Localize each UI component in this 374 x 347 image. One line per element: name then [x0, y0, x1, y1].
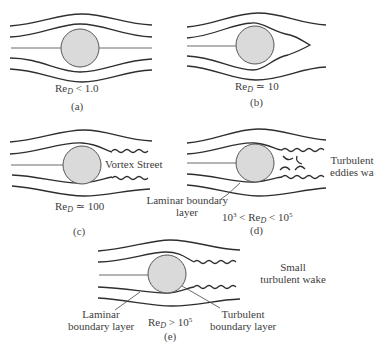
re-sub: D [160, 321, 166, 330]
panel-d [187, 129, 326, 199]
re-prefix: Re [55, 82, 67, 94]
annotation-line: Laminar boundary [144, 194, 228, 206]
cylinder [236, 26, 274, 64]
annotation-line: eddies wake [330, 166, 374, 178]
panel-tag-c: (c) [73, 225, 85, 237]
annotation-line: layer [144, 206, 228, 218]
annotation-turbulent-eddies: Turbulent eddies wake [330, 154, 374, 178]
re-sub: D [67, 87, 73, 96]
annotation-line: boundary layer [68, 320, 134, 332]
re-sub: D [67, 205, 73, 214]
panel-a [10, 14, 152, 82]
annotation-line: turbulent wake [253, 273, 333, 285]
re-prefix: Re [148, 316, 160, 328]
re-label-b: ReD ≃ 10 [235, 80, 279, 96]
re-label-c: ReD ≃ 100 [55, 200, 104, 216]
flow-diagram: .s { fill:none; stroke:#2e2e2e; stroke-w… [0, 0, 374, 347]
cylinder [61, 29, 99, 67]
re-exp: 5 [189, 316, 193, 324]
cylinder [236, 144, 274, 182]
re-relation: ≃ 10 [256, 80, 279, 92]
annotation-line: Laminar [68, 308, 134, 320]
re-sub: D [247, 85, 253, 94]
re-upper-exp: 5 [289, 211, 293, 219]
annotation-turbulent-bl-e: Turbulent boundary layer [210, 308, 276, 332]
annotation-line: Turbulent [330, 154, 374, 166]
panel-b [187, 13, 326, 80]
re-prefix: Re [248, 211, 260, 223]
panel-tag-d: (d) [250, 224, 263, 236]
re-relation: < 1.0 [76, 82, 99, 94]
re-upper: < 10 [266, 211, 289, 223]
annotation-laminar-bl-e: Laminar boundary layer [68, 308, 134, 332]
cylinder [148, 255, 186, 293]
re-prefix: Re [55, 200, 67, 212]
panel-tag-e: (e) [164, 330, 176, 342]
annotation-line: boundary layer [210, 320, 276, 332]
re-relation: ≃ 100 [76, 200, 104, 212]
panel-tag-b: (b) [250, 96, 263, 108]
re-prefix: Re [235, 80, 247, 92]
re-lower: 10 [222, 211, 233, 223]
panel-tag-a: (a) [71, 100, 83, 112]
panel-e [98, 240, 240, 310]
cylinder [63, 146, 101, 184]
annotation-vortex-street: Vortex Street [105, 158, 163, 170]
re-relation: < [237, 211, 249, 223]
annotation-laminar-bl-d: Laminar boundary layer [144, 194, 228, 218]
annotation-line: Small [253, 261, 333, 273]
annotation-small-turbulent-wake: Small turbulent wake [253, 261, 333, 285]
annotation-line: Turbulent [210, 308, 276, 320]
re-label-a: ReD < 1.0 [55, 82, 98, 98]
re-relation: > 10 [169, 316, 189, 328]
